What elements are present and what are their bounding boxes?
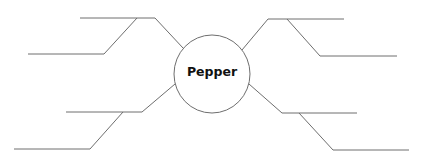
branch-bottom-right (249, 84, 409, 150)
branch-bottom-left (14, 84, 175, 149)
spider-diagram (0, 0, 421, 159)
branch-top-left (28, 18, 183, 54)
center-label: Pepper (174, 64, 250, 79)
branch-top-right (242, 19, 397, 56)
